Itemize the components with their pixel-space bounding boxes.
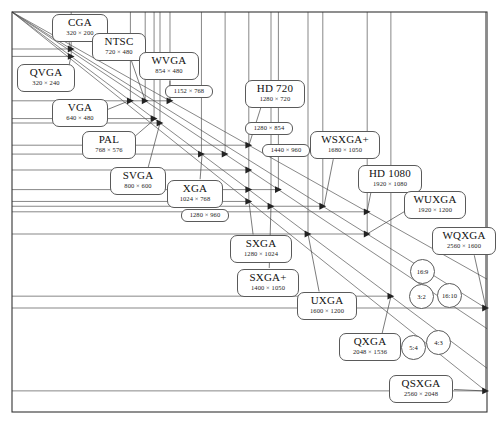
resolution-label-name: HD 720	[250, 83, 300, 94]
resolution-label-ntsc[interactable]: NTSC720 × 480	[92, 33, 146, 61]
resolution-label-r1440x960[interactable]: 1440 × 960	[262, 144, 310, 157]
resolution-label-name: QSXGA	[394, 378, 448, 389]
resolution-label-name: XGA	[172, 183, 218, 194]
leader-line	[133, 119, 155, 138]
resolution-label-xga[interactable]: XGA1024 × 768	[167, 180, 223, 208]
resolution-label-name: WSXGA+	[315, 134, 375, 145]
aspect-ratio-bubble-r169[interactable]: 16:9	[410, 259, 435, 284]
resolution-label-dimensions: 2560 × 2048	[394, 391, 448, 398]
resolution-label-dimensions: 720 × 480	[97, 49, 141, 56]
resolution-label-dimensions: 320 × 240	[22, 80, 70, 87]
resolution-label-dimensions: 2048 × 1536	[344, 349, 396, 356]
aspect-ratio-bubble-label: 5:4	[409, 344, 417, 351]
resolution-label-name: SXGA+	[242, 272, 294, 283]
resolution-label-dimensions: 800 × 600	[115, 183, 161, 190]
resolution-label-qxga[interactable]: QXGA2048 × 1536	[339, 333, 401, 361]
resolution-label-name: QXGA	[344, 336, 396, 347]
resolution-label-dimensions: 1280 × 960	[190, 212, 221, 219]
aspect-ratio-bubble-label: 16:10	[442, 292, 457, 299]
aspect-ratio-bubble-label: 3:2	[417, 293, 425, 300]
resolution-label-r1152x768[interactable]: 1152 × 768	[165, 85, 213, 98]
leader-line	[367, 191, 371, 212]
resolution-label-name: SVGA	[115, 170, 161, 181]
leader-line	[308, 234, 319, 291]
resolution-label-name: PAL	[87, 134, 131, 145]
resolution-label-dimensions: 1680 × 1050	[315, 147, 375, 154]
resolution-label-dimensions: 2560 × 1600	[437, 243, 491, 250]
resolution-label-sxga[interactable]: SXGA1280 × 1024	[230, 235, 292, 263]
resolution-label-wvga[interactable]: WVGA854 × 480	[139, 52, 199, 80]
resolution-label-dimensions: 1280 × 854	[254, 125, 285, 132]
resolution-label-qsxga[interactable]: QSXGA2560 × 2048	[389, 375, 453, 403]
resolution-chart-figure: CGA320 × 200NTSC720 × 480WVGA854 × 480QV…	[0, 0, 502, 424]
resolution-label-name: VGA	[57, 102, 103, 113]
leader-line	[249, 202, 253, 234]
resolution-label-hd720[interactable]: HD 7201280 × 720	[245, 80, 305, 108]
resolution-label-sxgap[interactable]: SXGA+1400 × 1050	[237, 269, 299, 297]
resolution-label-name: UXGA	[302, 295, 352, 306]
resolution-label-svga[interactable]: SVGA800 × 600	[110, 167, 166, 195]
aspect-ratio-bubble-r1610[interactable]: 16:10	[437, 283, 462, 308]
resolution-label-pal[interactable]: PAL768 × 576	[82, 131, 136, 159]
resolution-label-wsxga[interactable]: WSXGA+1680 × 1050	[310, 131, 380, 159]
resolution-label-wqxga[interactable]: WQXGA2560 × 1600	[432, 227, 496, 255]
resolution-label-r1280x960[interactable]: 1280 × 960	[181, 209, 229, 222]
resolution-label-dimensions: 640 × 480	[57, 115, 103, 122]
resolution-label-dimensions: 1024 × 768	[172, 196, 218, 203]
resolution-label-wuxga[interactable]: WUXGA1920 × 1200	[404, 191, 466, 219]
aspect-ratio-bubble-label: 4:3	[434, 339, 442, 346]
resolution-label-dimensions: 1920 × 1080	[363, 181, 417, 188]
resolution-label-dimensions: 1400 × 1050	[242, 285, 294, 292]
leader-line	[474, 255, 486, 308]
resolution-label-dimensions: 1920 × 1200	[409, 207, 461, 214]
resolution-label-qvga[interactable]: QVGA320 × 240	[17, 64, 75, 92]
resolution-label-dimensions: 1280 × 1024	[235, 251, 287, 258]
resolution-label-name: HD 1080	[363, 168, 417, 179]
resolution-label-dimensions: 1152 × 768	[174, 88, 204, 95]
resolution-label-name: WVGA	[144, 55, 194, 66]
resolution-label-dimensions: 768 × 576	[87, 147, 131, 154]
resolution-label-vga[interactable]: VGA640 × 480	[52, 99, 108, 127]
resolution-label-r1280x854[interactable]: 1280 × 854	[245, 122, 293, 135]
resolution-label-dimensions: 1600 × 1200	[302, 308, 352, 315]
leader-line	[200, 155, 202, 179]
aspect-ratio-bubble-label: 16:9	[417, 268, 429, 275]
resolution-label-name: WUXGA	[409, 194, 461, 205]
aspect-ratio-bubble-r32[interactable]: 3:2	[409, 284, 434, 309]
aspect-ratio-bubble-r43[interactable]: 4:3	[426, 330, 451, 355]
resolution-label-hd1080[interactable]: HD 10801920 × 1080	[358, 165, 422, 193]
resolution-label-uxga[interactable]: UXGA1600 × 1200	[297, 292, 357, 320]
leader-line	[324, 159, 333, 206]
resolution-label-name: SXGA	[235, 238, 287, 249]
resolution-label-dimensions: 1280 × 720	[250, 96, 300, 103]
resolution-label-name: QVGA	[22, 67, 70, 78]
resolution-label-name: CGA	[57, 17, 103, 28]
aspect-ratio-bubble-r54[interactable]: 5:4	[401, 335, 426, 360]
resolution-label-dimensions: 854 × 480	[144, 68, 194, 75]
resolution-label-dimensions: 1440 × 960	[271, 147, 302, 154]
resolution-label-name: WQXGA	[437, 230, 491, 241]
resolution-label-name: NTSC	[97, 36, 141, 47]
leader-line	[367, 211, 406, 234]
